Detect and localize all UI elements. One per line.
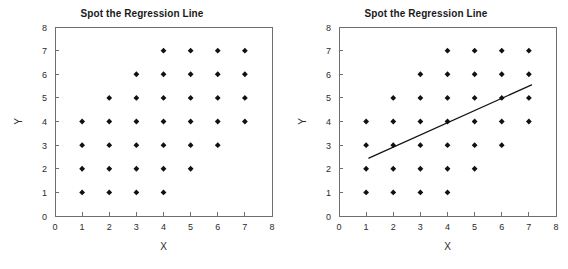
data-point xyxy=(79,142,85,148)
y-tick-label: 3 xyxy=(42,141,47,151)
data-point xyxy=(106,119,112,125)
y-tick-label: 5 xyxy=(326,93,331,103)
y-tick-label: 6 xyxy=(42,70,47,80)
data-point xyxy=(161,166,167,172)
x-tick-label: 4 xyxy=(161,222,166,232)
data-point xyxy=(390,119,396,125)
data-point xyxy=(445,95,451,101)
plot-area: 012345678012345678XY xyxy=(0,0,284,269)
data-point xyxy=(215,95,221,101)
data-point xyxy=(417,189,423,195)
data-point xyxy=(499,71,505,77)
y-tick-label: 5 xyxy=(42,93,47,103)
data-point xyxy=(188,142,194,148)
data-point xyxy=(106,166,112,172)
data-point xyxy=(188,166,194,172)
data-point xyxy=(133,95,139,101)
x-tick-label: 6 xyxy=(215,222,220,232)
data-point xyxy=(79,166,85,172)
y-tick-label: 4 xyxy=(42,117,47,127)
x-tick-label: 8 xyxy=(553,222,558,232)
y-tick-label: 0 xyxy=(326,212,331,222)
y-tick-label: 1 xyxy=(42,188,47,198)
data-point xyxy=(242,71,248,77)
x-axis: 012345678 xyxy=(336,212,558,232)
x-tick-label: 0 xyxy=(52,222,57,232)
data-point xyxy=(526,48,532,54)
x-tick-label: 2 xyxy=(107,222,112,232)
x-axis-label: X xyxy=(444,241,451,252)
data-point-group xyxy=(79,48,248,196)
data-point xyxy=(363,166,369,172)
data-point xyxy=(499,48,505,54)
regression-figure: Spot the Regression Line0123456780123456… xyxy=(0,0,568,269)
data-point xyxy=(445,48,451,54)
y-tick-label: 6 xyxy=(326,70,331,80)
data-point xyxy=(417,166,423,172)
data-point xyxy=(390,189,396,195)
data-point xyxy=(363,189,369,195)
data-point xyxy=(215,71,221,77)
data-point xyxy=(242,48,248,54)
data-point xyxy=(106,189,112,195)
data-point xyxy=(390,95,396,101)
x-tick-label: 5 xyxy=(188,222,193,232)
data-point xyxy=(188,95,194,101)
y-tick-label: 8 xyxy=(326,23,331,33)
data-point xyxy=(215,119,221,125)
data-point xyxy=(161,71,167,77)
data-point xyxy=(161,142,167,148)
y-tick-label: 2 xyxy=(42,164,47,174)
data-point xyxy=(133,142,139,148)
data-point xyxy=(133,166,139,172)
y-tick-label: 3 xyxy=(326,141,331,151)
data-point xyxy=(526,71,532,77)
data-point xyxy=(472,95,478,101)
x-axis: 012345678 xyxy=(52,212,274,232)
y-tick-label: 1 xyxy=(326,188,331,198)
data-point xyxy=(188,71,194,77)
data-point xyxy=(526,95,532,101)
data-point xyxy=(417,95,423,101)
data-point xyxy=(215,48,221,54)
x-tick-label: 0 xyxy=(336,222,341,232)
y-axis: 012345678 xyxy=(326,23,343,222)
data-point xyxy=(363,142,369,148)
data-point xyxy=(133,189,139,195)
data-point xyxy=(188,48,194,54)
data-point xyxy=(161,119,167,125)
data-point xyxy=(472,142,478,148)
data-point xyxy=(417,119,423,125)
data-point xyxy=(161,95,167,101)
data-point xyxy=(472,166,478,172)
x-tick-label: 7 xyxy=(526,222,531,232)
data-point xyxy=(417,71,423,77)
data-point xyxy=(79,119,85,125)
data-point xyxy=(161,48,167,54)
data-point xyxy=(445,71,451,77)
x-axis-label: X xyxy=(160,241,167,252)
x-tick-label: 4 xyxy=(445,222,450,232)
data-point xyxy=(242,95,248,101)
data-point xyxy=(445,189,451,195)
data-point xyxy=(215,142,221,148)
data-point xyxy=(79,189,85,195)
data-point xyxy=(445,166,451,172)
x-tick-label: 5 xyxy=(472,222,477,232)
y-axis: 012345678 xyxy=(42,23,59,222)
data-point xyxy=(188,119,194,125)
x-tick-label: 1 xyxy=(364,222,369,232)
data-point xyxy=(161,189,167,195)
data-point xyxy=(445,142,451,148)
data-point xyxy=(472,119,478,125)
y-tick-label: 2 xyxy=(326,164,331,174)
data-point xyxy=(472,48,478,54)
chart-panel-left: Spot the Regression Line0123456780123456… xyxy=(0,0,284,269)
data-point xyxy=(242,119,248,125)
x-tick-label: 8 xyxy=(269,222,274,232)
data-point xyxy=(499,119,505,125)
data-point xyxy=(390,166,396,172)
x-tick-label: 3 xyxy=(134,222,139,232)
data-point xyxy=(363,119,369,125)
x-tick-label: 6 xyxy=(499,222,504,232)
